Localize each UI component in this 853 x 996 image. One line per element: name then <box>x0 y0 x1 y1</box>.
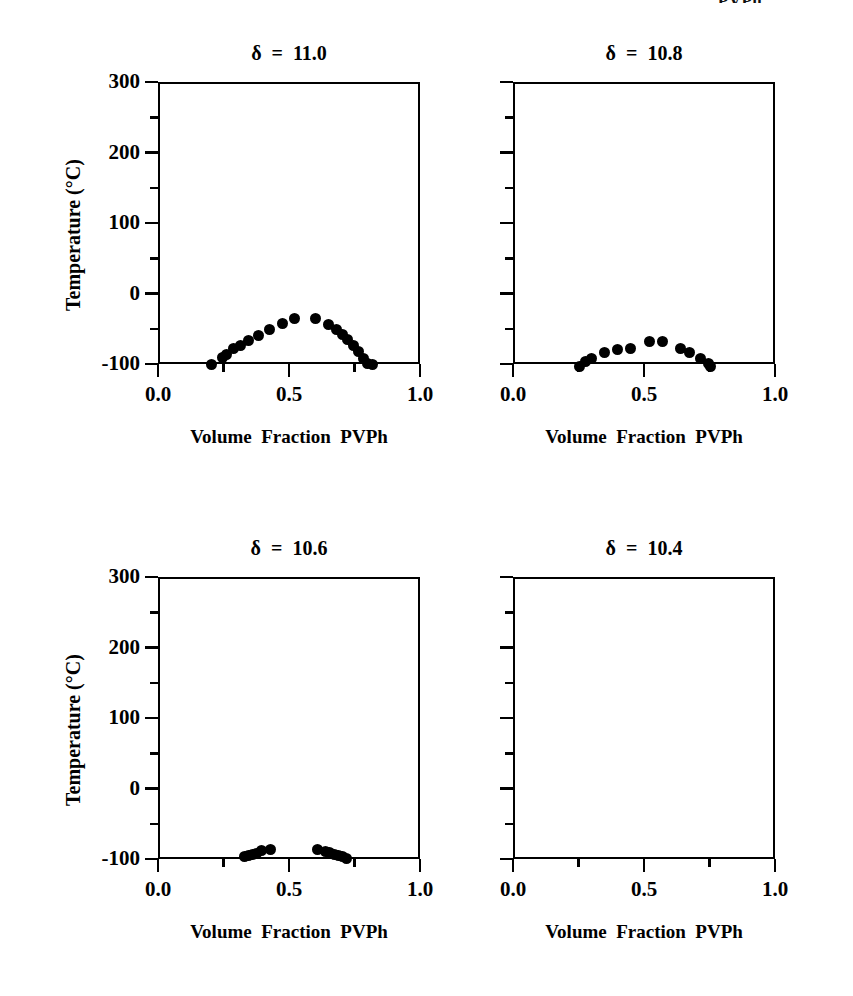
y-axis-minor-tick <box>150 752 158 755</box>
data-point <box>586 353 597 364</box>
y-axis-major-tick <box>500 151 513 154</box>
x-axis-tick-label: 1.0 <box>738 382 812 407</box>
panel-title: δ = 11.0 <box>158 42 420 65</box>
x-axis-tick-label: 0.5 <box>607 382 681 407</box>
data-point <box>253 330 264 341</box>
y-axis-tick-label: 300 <box>109 71 141 92</box>
x-axis-minor-tick <box>353 364 356 372</box>
x-axis-minor-tick <box>222 364 225 372</box>
x-axis-title: Volume Fraction PVPh <box>495 921 793 943</box>
x-axis-major-tick <box>288 364 291 377</box>
plot-area <box>158 82 420 364</box>
y-axis-major-tick <box>500 787 513 790</box>
y-axis-minor-tick <box>505 611 513 614</box>
x-axis-minor-tick <box>577 859 580 867</box>
data-point <box>310 313 321 324</box>
x-axis-tick-label: 1.0 <box>383 382 457 407</box>
y-axis-minor-tick <box>150 116 158 119</box>
plot-area <box>513 82 775 364</box>
y-axis-major-tick <box>145 787 158 790</box>
data-point <box>599 347 610 358</box>
x-axis-minor-tick <box>708 364 711 372</box>
y-axis-minor-tick <box>505 257 513 260</box>
x-axis-major-tick <box>643 859 646 872</box>
plot-area <box>158 577 420 859</box>
panel-title: δ = 10.8 <box>513 42 775 65</box>
y-axis-major-tick <box>500 81 513 84</box>
x-axis-title: Volume Fraction PVPh <box>140 426 438 448</box>
data-point <box>264 324 275 335</box>
x-axis-tick-label: 0.5 <box>607 877 681 902</box>
y-axis-major-tick <box>145 576 158 579</box>
data-point <box>289 313 300 324</box>
y-axis-tick-label: 100 <box>109 212 141 233</box>
x-axis-major-tick <box>643 364 646 377</box>
y-axis-minor-tick <box>505 752 513 755</box>
y-axis-major-tick <box>500 646 513 649</box>
y-axis-minor-tick <box>150 823 158 826</box>
y-axis-major-tick <box>500 717 513 720</box>
y-axis-tick-label: 300 <box>109 566 141 587</box>
y-axis-major-tick <box>145 151 158 154</box>
plot-area <box>513 577 775 859</box>
y-axis-minor-tick <box>505 682 513 685</box>
x-axis-major-tick <box>774 364 777 377</box>
panel-title: δ = 10.4 <box>513 537 775 560</box>
data-point <box>277 318 288 329</box>
data-point <box>612 344 623 355</box>
data-point <box>341 853 352 864</box>
x-axis-major-tick <box>774 859 777 872</box>
x-axis-major-tick <box>157 364 160 377</box>
y-axis-major-tick <box>145 646 158 649</box>
x-axis-tick-label: 0.0 <box>476 877 550 902</box>
x-axis-major-tick <box>512 859 515 872</box>
x-axis-title: Volume Fraction PVPh <box>495 426 793 448</box>
x-axis-tick-label: 1.0 <box>738 877 812 902</box>
y-axis-minor-tick <box>150 187 158 190</box>
figure-canvas: PVPh δ = 11.0 3002001000-1000.00.51.0Vol… <box>0 0 853 996</box>
y-axis-tick-label: 0 <box>130 778 141 799</box>
y-axis-minor-tick <box>505 328 513 331</box>
y-axis-tick-label: 0 <box>130 283 141 304</box>
y-axis-minor-tick <box>505 187 513 190</box>
data-point <box>625 343 636 354</box>
y-axis-minor-tick <box>150 257 158 260</box>
y-axis-major-tick <box>145 222 158 225</box>
y-axis-major-tick <box>145 717 158 720</box>
clipped-header-text: PVPh <box>660 0 820 3</box>
x-axis-minor-tick <box>222 859 225 867</box>
y-axis-title: Temperature (°C) <box>62 159 85 311</box>
x-axis-tick-label: 0.0 <box>121 877 195 902</box>
data-point <box>243 335 254 346</box>
x-axis-tick-label: 0.5 <box>252 382 326 407</box>
x-axis-minor-tick <box>708 859 711 867</box>
y-axis-minor-tick <box>505 116 513 119</box>
y-axis-major-tick <box>500 292 513 295</box>
panel-title: δ = 10.6 <box>158 537 420 560</box>
y-axis-tick-label: 200 <box>109 142 141 163</box>
y-axis-major-tick <box>500 222 513 225</box>
y-axis-minor-tick <box>150 611 158 614</box>
y-axis-tick-label: -100 <box>102 848 141 869</box>
x-axis-major-tick <box>419 859 422 872</box>
data-point <box>684 347 695 358</box>
x-axis-major-tick <box>512 364 515 377</box>
x-axis-minor-tick <box>577 364 580 372</box>
y-axis-tick-label: -100 <box>102 353 141 374</box>
data-point <box>657 336 668 347</box>
x-axis-tick-label: 0.0 <box>476 382 550 407</box>
y-axis-major-tick <box>145 292 158 295</box>
x-axis-minor-tick <box>353 859 356 867</box>
y-axis-title: Temperature (°C) <box>62 654 85 806</box>
y-axis-tick-label: 200 <box>109 637 141 658</box>
data-point <box>367 359 378 370</box>
y-axis-major-tick <box>500 576 513 579</box>
y-axis-tick-label: 100 <box>109 707 141 728</box>
x-axis-major-tick <box>157 859 160 872</box>
y-axis-minor-tick <box>150 328 158 331</box>
x-axis-major-tick <box>288 859 291 872</box>
data-point <box>705 361 716 372</box>
data-point <box>265 844 276 855</box>
data-point <box>206 359 217 370</box>
x-axis-tick-label: 1.0 <box>383 877 457 902</box>
